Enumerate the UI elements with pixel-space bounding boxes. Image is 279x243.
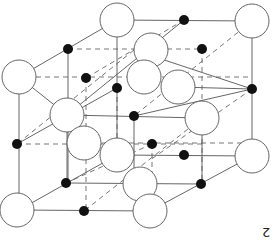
small-ion — [61, 178, 71, 188]
large-ion — [161, 70, 195, 104]
large-ion — [2, 60, 36, 94]
small-ion — [81, 73, 91, 83]
figure-label: 2 — [262, 225, 270, 240]
small-ion — [112, 83, 122, 93]
small-ion — [247, 84, 257, 94]
lattice-diagram — [0, 0, 279, 243]
large-ion — [235, 4, 269, 38]
small-ion — [179, 15, 189, 25]
large-ion — [100, 138, 134, 172]
large-ion — [127, 60, 161, 94]
large-ion — [235, 139, 269, 173]
small-ion — [196, 179, 206, 189]
large-ion — [100, 3, 134, 37]
large-ion — [133, 194, 167, 228]
large-ion — [0, 193, 34, 227]
small-ion — [12, 139, 22, 149]
small-ion — [79, 206, 89, 216]
large-ion — [67, 126, 101, 160]
small-ion — [197, 44, 207, 54]
small-ion — [129, 111, 139, 121]
large-ion — [185, 101, 219, 135]
small-ion — [63, 44, 73, 54]
small-ion — [147, 139, 157, 149]
small-ion — [179, 150, 189, 160]
